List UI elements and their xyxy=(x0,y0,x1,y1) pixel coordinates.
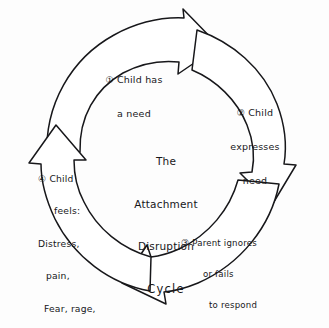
step-3-text-2: or fails xyxy=(181,269,305,279)
step-2-marker: ② xyxy=(237,108,245,118)
step-4-text-3: Distress, xyxy=(38,239,144,250)
attachment-disruption-cycle-diagram: The Attachment Disruption Cycle ① Child … xyxy=(0,0,329,328)
step-4-text-2: feels: xyxy=(38,206,144,217)
step-3-marker: ③ xyxy=(181,238,189,248)
step-2-text-1: Child xyxy=(248,107,273,118)
step-3-label: ③ Parent ignores or fails to respond to … xyxy=(181,218,305,328)
step-1-line-1: ① Child has xyxy=(86,74,182,86)
step-1-label: ① Child has a need xyxy=(86,52,182,142)
step-3-text-3: to respond xyxy=(181,300,305,310)
step-4-label: ④ Child feels: Distress, pain, Fear, rag… xyxy=(38,152,144,328)
step-2-text-2: expresses xyxy=(207,141,303,152)
step-4-line-1: ④ Child xyxy=(38,174,144,185)
step-4-text-4: pain, xyxy=(38,271,144,282)
step-2-line-1: ② Child xyxy=(207,107,303,119)
step-2-label: ② Child expresses need xyxy=(207,85,303,209)
step-4-text-1: Child xyxy=(49,173,73,184)
step-4-text-5: Fear, rage, xyxy=(38,304,144,315)
step-3-text-1: Parent ignores xyxy=(192,238,257,248)
step-1-marker: ① xyxy=(105,75,113,85)
step-2-text-3: need xyxy=(207,175,303,186)
step-1-text-2: a need xyxy=(86,108,182,119)
step-1-text-1: Child has xyxy=(117,74,163,85)
step-3-line-1: ③ Parent ignores xyxy=(181,238,305,249)
step-4-marker: ④ xyxy=(38,174,46,184)
